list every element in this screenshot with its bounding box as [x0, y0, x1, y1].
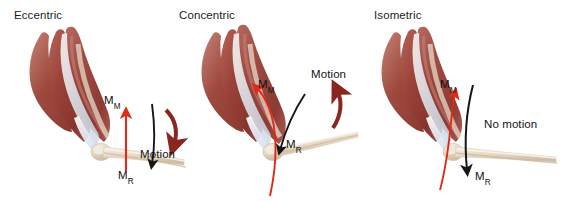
muscle-force-label-eccentric: MM — [104, 94, 121, 106]
motion-label-isometric: No motion — [484, 118, 537, 130]
resistance-label-concentric: MR — [286, 138, 302, 150]
eccentric-arm-illustration — [0, 0, 190, 201]
motion-label-concentric: Motion — [311, 68, 346, 80]
muscle-contraction-figure: Eccentric — [0, 0, 562, 201]
muscle-force-label-concentric: MM — [258, 78, 275, 90]
resistance-label-isometric: MR — [475, 170, 491, 182]
muscle-force-label-isometric: MM — [440, 78, 457, 90]
panel-eccentric: Eccentric — [0, 0, 190, 201]
resistance-label-eccentric: MR — [118, 169, 134, 181]
panel-concentric: Concentric — [165, 0, 365, 201]
panel-isometric: Isometric — [360, 0, 562, 201]
isometric-arm-illustration — [360, 0, 562, 201]
motion-arrow-concentric — [333, 90, 340, 128]
concentric-arm-illustration — [165, 0, 365, 201]
